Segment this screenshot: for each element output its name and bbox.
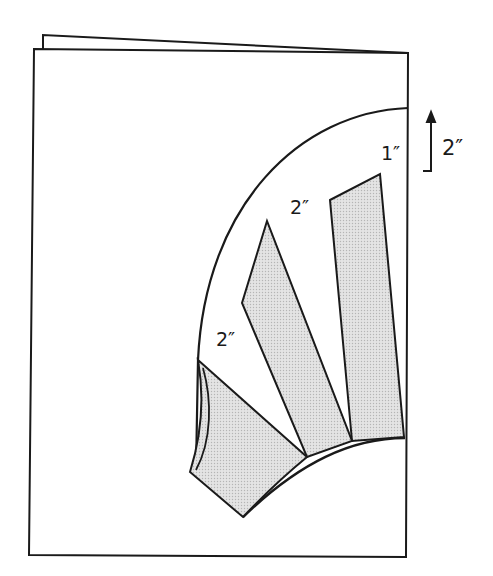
pattern-diagram xyxy=(0,0,493,576)
label-top-margin: 1″ xyxy=(381,144,400,163)
label-outer-dimension: 2″ xyxy=(442,138,463,159)
wedge-right xyxy=(330,174,404,441)
dimension-arrow-icon xyxy=(423,112,435,171)
label-middle-gap: 2″ xyxy=(290,198,309,217)
label-left-gap: 2″ xyxy=(216,330,235,349)
